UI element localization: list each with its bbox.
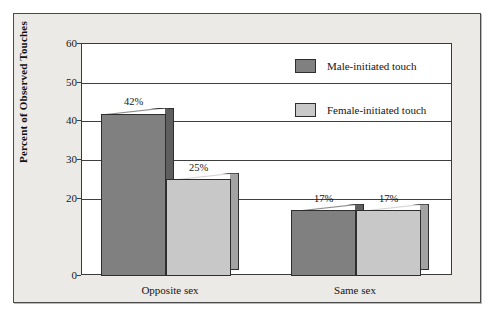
bar-female-same-side: [420, 204, 429, 270]
gridline-50: [82, 83, 451, 84]
y-tick-label-60: 60: [51, 38, 77, 49]
category-label-opposite-sex: Opposite sex: [100, 284, 240, 296]
legend-swatch-female-icon: [295, 103, 316, 117]
category-label-same-sex: Same sex: [285, 284, 425, 296]
bar-female-same: [356, 210, 421, 276]
y-tick-label-30: 30: [51, 154, 77, 165]
plot-area: 42% 25% 17% 17% Male-initiated touch Fem…: [81, 43, 452, 275]
bar-value-male-same: 17%: [291, 193, 356, 204]
y-tick-label-50: 50: [51, 76, 77, 87]
bar-female-opposite: [166, 179, 231, 276]
chart-figure: Percent of Observed Touches 60 50 40 30 …: [0, 0, 492, 317]
bar-female-opposite-side: [230, 173, 239, 270]
y-tick-label-0: 0: [51, 270, 77, 281]
y-axis-title: Percent of Observed Touches: [17, 0, 29, 192]
bar-male-opposite: [101, 114, 166, 276]
legend-swatch-male-icon: [295, 59, 316, 73]
legend-label-male: Male-initiated touch: [327, 60, 417, 72]
bar-male-same: [291, 210, 356, 276]
bar-value-male-opposite: 42%: [101, 96, 166, 107]
y-tick-mark-0: [77, 275, 81, 276]
legend-item-male: Male-initiated touch: [295, 59, 417, 73]
y-tick-label-20: 20: [51, 192, 77, 203]
y-tick-label-40: 40: [51, 115, 77, 126]
bar-value-female-same: 17%: [356, 193, 421, 204]
y-axis-ticks: 60 50 40 30 20 0: [45, 43, 77, 275]
bar-value-female-opposite: 25%: [166, 162, 231, 173]
legend-label-female: Female-initiated touch: [327, 104, 426, 116]
legend-item-female: Female-initiated touch: [295, 103, 426, 117]
